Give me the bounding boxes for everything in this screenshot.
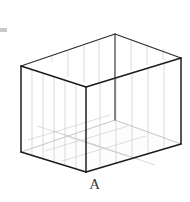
figure-label: A [0, 176, 190, 193]
edge-artifact-mark [0, 28, 7, 32]
figure-container: A [0, 0, 190, 202]
open-box-drawing [0, 0, 190, 202]
